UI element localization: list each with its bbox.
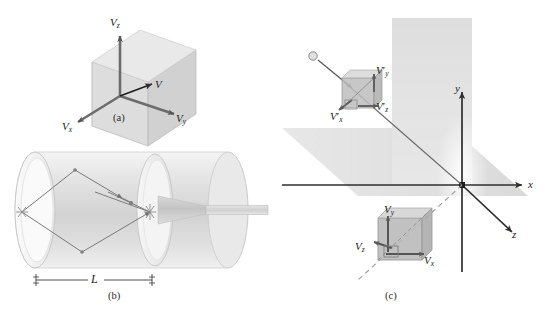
caption-panel-b: (b) <box>108 290 120 301</box>
label-c-vy-sub: y <box>391 208 394 217</box>
label-c-vpy-base: V <box>376 64 383 76</box>
label-c-vz-sub: z <box>362 245 365 254</box>
label-c-axis-y: y <box>455 82 460 94</box>
trajectory-node-top <box>73 168 77 172</box>
cylinder-left-cap-inner <box>21 158 53 262</box>
label-a-vz-base: V <box>110 16 117 28</box>
label-c-vpz: V′z <box>376 100 388 114</box>
label-a-vz-sub: z <box>117 21 120 30</box>
label-c-vpy-sub: y <box>385 69 388 78</box>
label-a-vx-sub: x <box>69 125 72 134</box>
label-c-vy-base: V <box>384 203 391 215</box>
label-a-v-base: V <box>155 78 162 90</box>
label-c-vpx: V′x <box>330 110 342 124</box>
label-a-vx-base: V <box>62 120 69 132</box>
label-b-length: L <box>91 272 98 287</box>
label-c-vx: Vx <box>424 254 434 268</box>
label-c-vx-sub: x <box>431 259 434 268</box>
label-c-vx-base: V <box>424 254 431 266</box>
label-c-vy: Vy <box>384 203 394 217</box>
particle-source-dot <box>309 52 317 60</box>
label-a-vy-sub: y <box>183 117 186 126</box>
cube-c-lower <box>374 208 432 260</box>
label-c-axis-x: x <box>528 178 533 190</box>
label-c-vpx-base: V <box>330 110 337 122</box>
trajectory-endpoint <box>129 201 133 205</box>
trajectory-node-bottom <box>80 250 84 254</box>
figure-canvas <box>0 0 555 311</box>
panel-b-graphic <box>15 152 268 286</box>
label-c-vpz-base: V <box>376 100 383 112</box>
label-c-vpy: V′y <box>376 64 388 78</box>
label-c-vpz-sub: z <box>385 105 388 114</box>
label-a-vz: Vz <box>110 16 120 30</box>
panel-a-graphic <box>78 30 196 146</box>
label-a-v: V <box>155 78 162 90</box>
caption-panel-a: (a) <box>113 112 125 123</box>
label-c-vpx-sub: x <box>339 115 342 124</box>
panel-c-graphic <box>282 18 528 280</box>
label-c-axis-z: z <box>512 228 516 240</box>
label-a-vy-base: V <box>176 112 183 124</box>
label-c-vz-base: V <box>355 240 362 252</box>
physics-figure: Vz Vy Vx V (a) L (b) x y z V′y V′z V′x V… <box>0 0 555 311</box>
label-a-vy: Vy <box>176 112 186 126</box>
label-a-vx: Vx <box>62 120 72 134</box>
caption-panel-c: (c) <box>385 290 397 301</box>
label-c-vz: Vz <box>355 240 365 254</box>
